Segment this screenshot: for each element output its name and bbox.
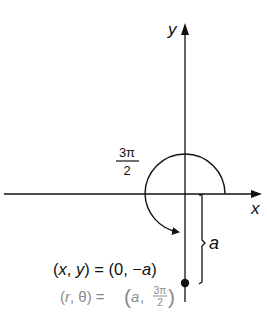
svg-text:(: (: [124, 285, 131, 308]
svg-text:,: ,: [140, 288, 144, 305]
polar-point-diagram: y x 3π 2 a (x, y) = (0, −a) (r, θ) = ( a…: [0, 0, 267, 329]
angle-numerator: 3π: [119, 145, 135, 160]
length-bracket: [199, 194, 205, 284]
polar-coords-label: (r, θ) = ( a , 3π 2 ): [60, 285, 175, 308]
rect-coords-label: (x, y) = (0, −a): [53, 260, 157, 278]
length-label: a: [209, 233, 219, 253]
point-marker: [181, 279, 189, 287]
svg-text:(r, θ) =: (r, θ) =: [60, 288, 105, 305]
y-axis-arrow-icon: [181, 23, 189, 35]
svg-text:2: 2: [157, 297, 163, 308]
svg-text:a: a: [131, 288, 139, 305]
svg-text:): ): [168, 285, 175, 308]
svg-text:3π: 3π: [154, 285, 167, 296]
y-axis-label: y: [167, 20, 178, 39]
x-axis-arrow-icon: [251, 190, 262, 198]
angle-denominator: 2: [123, 163, 130, 178]
x-axis-label: x: [250, 199, 260, 218]
